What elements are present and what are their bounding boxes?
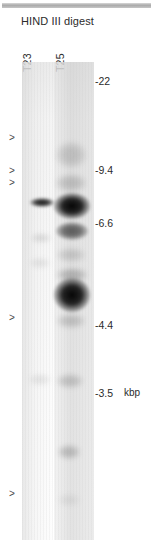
arrowhead-icon: > <box>9 166 15 176</box>
blot-band <box>29 374 51 385</box>
size-marker: -22 <box>95 75 110 87</box>
southern-blot-figure: HIND III digest T23 T25 -22-9.4-6.6-4.4-… <box>0 0 153 557</box>
arrowhead-icon: > <box>9 178 15 188</box>
scan-top-rule <box>2 3 151 8</box>
blot-band <box>56 222 88 240</box>
arrowhead-icon: > <box>9 313 15 323</box>
blot-band <box>57 248 85 262</box>
unit-label: kbp <box>124 387 140 398</box>
blot-band <box>54 278 90 312</box>
blot-band <box>31 234 51 242</box>
figure-title: HIND III digest <box>21 15 94 27</box>
arrowhead-icon: > <box>9 489 15 499</box>
blot-band <box>56 174 86 192</box>
size-marker: -3.5 <box>95 387 113 399</box>
arrowhead-icon: > <box>9 133 15 143</box>
blot-band <box>58 494 80 506</box>
blot-membrane <box>22 62 94 540</box>
blot-band <box>57 374 83 388</box>
blot-band <box>30 258 50 268</box>
size-marker: -6.6 <box>95 217 113 229</box>
size-marker: -9.4 <box>95 164 113 176</box>
blot-band <box>58 445 80 459</box>
blot-band <box>54 193 90 219</box>
blot-band <box>57 314 85 328</box>
size-marker: -4.4 <box>95 319 113 331</box>
blot-band <box>30 198 54 207</box>
blot-band <box>56 142 86 168</box>
